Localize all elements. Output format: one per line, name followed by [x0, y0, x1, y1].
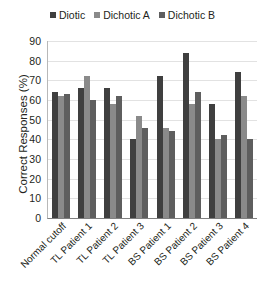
chart-legend: Diotic Dichotic A Dichotic B — [0, 10, 265, 21]
y-axis-tick-labels: 0102030405060708090 — [0, 41, 45, 219]
legend-entry-diotic: Diotic — [50, 10, 85, 21]
x-axis-tick-labels: Normal cutoffTL Patient 1TL Patient 2TL … — [48, 219, 257, 286]
bar — [116, 96, 122, 218]
bar-group — [48, 41, 74, 218]
bar — [195, 92, 201, 218]
y-axis-tick-label: 70 — [29, 75, 41, 86]
y-axis-tick-label: 30 — [29, 154, 41, 165]
y-axis-tick-label: 90 — [29, 36, 41, 47]
legend-entry-dichotic-a: Dichotic A — [94, 10, 150, 21]
bar-group — [100, 41, 126, 218]
legend-label-dichotic-b: Dichotic B — [168, 10, 215, 21]
legend-label-diotic: Diotic — [59, 10, 85, 21]
x-tick-slot: BS Patient 4 — [231, 219, 257, 286]
y-axis-tick-label: 60 — [29, 95, 41, 106]
y-axis-tick-label: 0 — [35, 213, 41, 224]
y-axis-tick-label: 80 — [29, 55, 41, 66]
legend-label-dichotic-a: Dichotic A — [103, 10, 150, 21]
y-axis-tick-label: 10 — [29, 193, 41, 204]
bar — [169, 131, 175, 218]
bar-group — [231, 41, 257, 218]
legend-swatch-dichotic-a — [94, 12, 100, 18]
bars-layer — [48, 41, 257, 218]
bar — [142, 128, 148, 218]
legend-entry-dichotic-b: Dichotic B — [159, 10, 215, 21]
bar — [221, 135, 227, 218]
bar-group — [126, 41, 152, 218]
bar-chart-figure: Diotic Dichotic A Dichotic B Correct Res… — [0, 0, 265, 286]
bar — [247, 139, 253, 218]
y-axis-tick-label: 40 — [29, 134, 41, 145]
bar-group — [179, 41, 205, 218]
legend-swatch-dichotic-b — [159, 12, 165, 18]
bar — [90, 100, 96, 218]
bar — [64, 94, 70, 218]
y-axis-tick-label: 20 — [29, 173, 41, 184]
bar-group — [74, 41, 100, 218]
legend-swatch-diotic — [50, 12, 56, 18]
bar-group — [205, 41, 231, 218]
bar-group — [153, 41, 179, 218]
y-axis-tick-label: 50 — [29, 114, 41, 125]
